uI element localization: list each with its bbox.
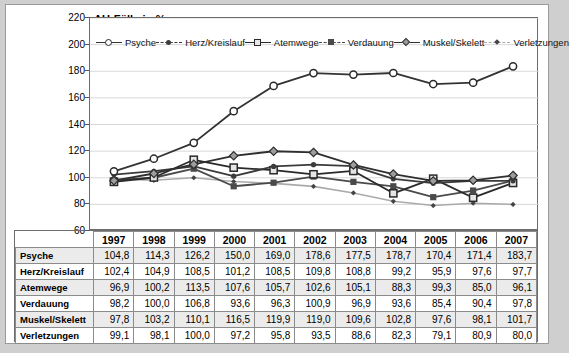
legend-item-verdauung[interactable]: Verdauung bbox=[319, 37, 394, 48]
table-year-header: 2003 bbox=[335, 232, 375, 248]
legend-item-muskel-skelett[interactable]: Muskel/Skelett bbox=[394, 37, 485, 48]
table-cell: 105,1 bbox=[335, 280, 375, 296]
legend-line-sample bbox=[394, 38, 420, 47]
legend-item-label: Verletzungen bbox=[513, 37, 568, 48]
data-table: 1997199819992000200120022003200420052006… bbox=[15, 231, 537, 344]
data-point-marker bbox=[231, 174, 236, 179]
table-row-label: Psyche bbox=[16, 248, 94, 264]
legend-item-label: Verdauung bbox=[348, 37, 394, 48]
data-point-marker bbox=[229, 152, 237, 160]
table-cell: 98,2 bbox=[94, 296, 134, 312]
table-cell: 96,9 bbox=[335, 296, 375, 312]
table-cell: 100,2 bbox=[134, 280, 174, 296]
table-row: Muskel/Skelett97,8103,2110,1116,5119,911… bbox=[16, 312, 537, 328]
figure-frame: AU-Fälle in % 6080100120140160180200220 … bbox=[5, 4, 549, 344]
table-cell: 171,4 bbox=[456, 248, 496, 264]
filled-square-icon bbox=[328, 39, 334, 45]
table-cell: 88,6 bbox=[335, 328, 375, 344]
table-year-header: 2006 bbox=[456, 232, 496, 248]
table-row: Verdauung98,2100,0106,893,696,3100,996,9… bbox=[16, 296, 537, 312]
table-cell: 116,5 bbox=[214, 312, 254, 328]
table-row-label: Verdauung bbox=[16, 296, 94, 312]
data-point-marker bbox=[231, 183, 237, 189]
table-cell: 80,9 bbox=[456, 328, 496, 344]
legend-line-sample bbox=[319, 38, 345, 47]
table-cell: 119,0 bbox=[295, 312, 335, 328]
data-point-marker bbox=[350, 179, 356, 185]
legend-item-verletzungen[interactable]: Verletzungen bbox=[484, 37, 568, 48]
table-cell: 96,9 bbox=[94, 280, 134, 296]
table-head: 1997199819992000200120022003200420052006… bbox=[16, 232, 537, 248]
table-cell: 110,1 bbox=[174, 312, 214, 328]
table-cell: 102,6 bbox=[295, 280, 335, 296]
data-point-marker bbox=[509, 63, 516, 70]
table-body: Psyche104,8114,3126,2150,0169,0178,6177,… bbox=[16, 248, 537, 344]
y-axis-tick-label: 180 bbox=[55, 65, 85, 76]
table-cell: 101,2 bbox=[214, 264, 254, 280]
legend-item-label: Muskel/Skelett bbox=[423, 37, 485, 48]
table-row: Herz/Kreislauf102,4104,9108,5101,2108,51… bbox=[16, 264, 537, 280]
table-cell: 93,6 bbox=[375, 296, 415, 312]
y-axis-tick bbox=[85, 17, 89, 18]
table-corner-cell bbox=[16, 232, 94, 248]
table-cell: 119,9 bbox=[255, 312, 295, 328]
table-cell: 102,4 bbox=[94, 264, 134, 280]
table-cell: 126,2 bbox=[174, 248, 214, 264]
y-axis-tick bbox=[85, 203, 89, 204]
table-cell: 108,8 bbox=[335, 264, 375, 280]
y-axis-tick bbox=[85, 177, 89, 178]
table-cell: 178,6 bbox=[295, 248, 335, 264]
y-axis-tick bbox=[85, 97, 89, 98]
legend-item-label: Psyche bbox=[125, 37, 156, 48]
table-cell: 109,6 bbox=[335, 312, 375, 328]
legend-item-atemwege[interactable]: Atemwege bbox=[245, 37, 319, 48]
y-axis-tick bbox=[85, 44, 89, 45]
table-year-header: 2000 bbox=[214, 232, 254, 248]
table-cell: 109,8 bbox=[295, 264, 335, 280]
table-year-header: 2005 bbox=[416, 232, 456, 248]
table-cell: 99,3 bbox=[416, 280, 456, 296]
table-cell: 80,0 bbox=[496, 328, 536, 344]
table-year-header: 1999 bbox=[174, 232, 214, 248]
chart-legend: PsycheHerz/KreislaufAtemwegeVerdauungMus… bbox=[92, 34, 535, 50]
table-cell: 88,3 bbox=[375, 280, 415, 296]
legend-line-sample bbox=[156, 38, 182, 47]
table-year-header: 2002 bbox=[295, 232, 335, 248]
data-point-marker bbox=[271, 164, 276, 169]
data-point-marker bbox=[350, 71, 357, 78]
table-cell: 113,5 bbox=[174, 280, 214, 296]
table-cell: 90,4 bbox=[456, 296, 496, 312]
small-diamond-icon bbox=[494, 39, 500, 45]
y-axis-tick-label: 140 bbox=[55, 118, 85, 129]
table-cell: 169,0 bbox=[255, 248, 295, 264]
table-cell: 95,8 bbox=[255, 328, 295, 344]
table-row-label: Herz/Kreislauf bbox=[16, 264, 94, 280]
table-cell: 97,2 bbox=[214, 328, 254, 344]
legend-line-sample bbox=[96, 38, 122, 47]
data-point-marker bbox=[431, 203, 436, 208]
y-axis-tick-label: 160 bbox=[55, 91, 85, 102]
table-year-header: 2004 bbox=[375, 232, 415, 248]
legend-item-herz-kreislauf[interactable]: Herz/Kreislauf bbox=[156, 37, 245, 48]
filled-circle-icon bbox=[166, 40, 171, 45]
data-point-marker bbox=[430, 80, 437, 87]
data-point-marker bbox=[190, 139, 197, 146]
data-point-marker bbox=[230, 164, 237, 171]
legend-item-psyche[interactable]: Psyche bbox=[96, 37, 156, 48]
y-axis-tick-label: 200 bbox=[55, 38, 85, 49]
data-point-marker bbox=[390, 183, 396, 189]
data-point-marker bbox=[311, 184, 316, 189]
table-row-label: Verletzungen bbox=[16, 328, 94, 344]
data-point-marker bbox=[390, 69, 397, 76]
table-cell: 102,8 bbox=[375, 312, 415, 328]
data-point-marker bbox=[309, 148, 317, 156]
y-axis-tick bbox=[85, 70, 89, 71]
table-cell: 97,7 bbox=[496, 264, 536, 280]
data-point-marker bbox=[110, 168, 117, 175]
table-cell: 104,9 bbox=[134, 264, 174, 280]
y-axis-tick bbox=[85, 230, 89, 231]
table-cell: 104,8 bbox=[94, 248, 134, 264]
data-point-marker bbox=[269, 147, 277, 155]
table-cell: 82,3 bbox=[375, 328, 415, 344]
table-cell: 105,7 bbox=[255, 280, 295, 296]
